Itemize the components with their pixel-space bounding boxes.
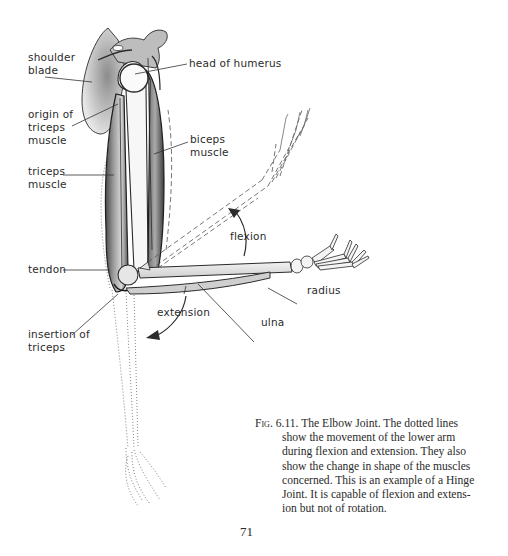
label-radius: radius	[307, 284, 341, 297]
figure-id: Fig. 6.11.	[255, 417, 298, 430]
caption-line-6: Joint. It is capable of flexion and exte…	[255, 488, 495, 502]
caption-line-1: Fig. 6.11. The Elbow Joint. The dotted l…	[255, 417, 495, 431]
figure-caption: Fig. 6.11. The Elbow Joint. The dotted l…	[255, 417, 495, 516]
label-ulna: ulna	[261, 316, 284, 329]
caption-line-4: show the change in shape of the muscles	[255, 460, 495, 474]
caption-line-3: during flexion and extension. They also	[255, 445, 495, 459]
label-flexion: flexion	[230, 230, 267, 243]
label-tendon: tendon	[28, 263, 66, 276]
label-insertion-of-triceps: insertion of triceps	[28, 328, 90, 354]
page-number: 71	[240, 524, 253, 540]
label-origin-of-triceps: origin of triceps muscle	[28, 108, 73, 147]
hand-bones	[291, 234, 369, 273]
label-extension: extension	[157, 306, 210, 319]
flexed-hand-sketch	[280, 108, 310, 150]
caption-line-7: ion but not of rotation.	[255, 502, 495, 516]
label-biceps-muscle: biceps muscle	[190, 133, 229, 159]
label-shoulder-blade: shoulder blade	[28, 51, 75, 77]
biceps-muscle-shape	[146, 56, 164, 275]
caption-line-5: concerned. This is an example of a Hinge	[255, 474, 495, 488]
label-triceps-muscle: triceps muscle	[28, 165, 67, 191]
caption-line-2: show the movement of the lower arm	[255, 431, 495, 445]
label-head-of-humerus: head of humerus	[189, 57, 281, 70]
